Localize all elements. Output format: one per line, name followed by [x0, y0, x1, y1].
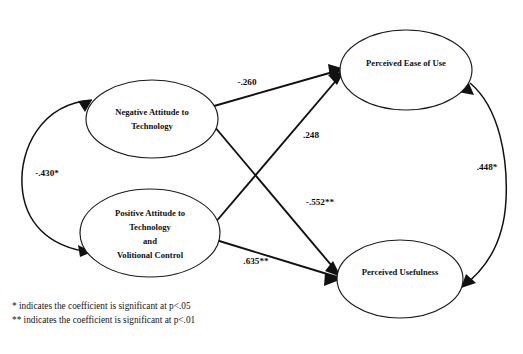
node-negative-attitude[interactable]: Negative Attitude to Technology	[86, 80, 218, 158]
node-negative-attitude-label-line-2: Technology	[131, 121, 173, 131]
node-perceived-ease-of-use[interactable]: Perceived Ease of Use	[340, 30, 472, 110]
node-perceived-usefulness-ellipse[interactable]	[337, 240, 463, 318]
path-negative-to-ease-of-use	[214, 64, 345, 106]
diagram-canvas: Negative Attitude to Technology Positive…	[0, 0, 523, 354]
node-positive-attitude-ellipse[interactable]	[80, 189, 220, 277]
node-positive-attitude[interactable]: Positive Attitude to Technology and Voli…	[80, 189, 220, 277]
node-negative-attitude-ellipse[interactable]	[86, 80, 218, 158]
node-positive-attitude-label-line-2: Technology	[129, 222, 171, 232]
correlation-peou-pu	[458, 81, 506, 288]
node-perceived-ease-of-use-label: Perceived Ease of Use	[366, 58, 446, 68]
node-perceived-ease-of-use-ellipse[interactable]	[340, 30, 472, 110]
path-line-neg-peou	[214, 70, 340, 106]
coefficient-label-neg-pos-correlation: -.430*	[35, 168, 59, 178]
path-line-pos-pu	[216, 240, 337, 277]
node-positive-attitude-label-line-1: Positive Attitude to	[115, 208, 185, 218]
coefficient-label-peou-pu-correlation: .448*	[477, 162, 498, 172]
coefficient-label-neg-to-pu: -.552**	[306, 197, 335, 207]
footnote-double-star: ** indicates the coefficient is signific…	[12, 315, 196, 325]
coefficient-label-pos-to-peou: .248	[303, 130, 319, 140]
correlation-curve-right	[462, 83, 506, 287]
coefficient-label-neg-to-peou: -.260	[237, 77, 257, 87]
node-perceived-usefulness[interactable]: Perceived Usefulness	[337, 240, 463, 318]
footnote-single-star: * indicates the coefficient is significa…	[12, 301, 191, 311]
path-positive-to-usefulness	[216, 240, 342, 286]
sem-path-diagram: Negative Attitude to Technology Positive…	[0, 0, 523, 354]
node-positive-attitude-label-line-4: Volitional Control	[117, 250, 184, 260]
node-positive-attitude-label-line-3: and	[143, 236, 157, 246]
coefficient-label-pos-to-pu: .635**	[243, 256, 269, 266]
node-perceived-usefulness-label: Perceived Usefulness	[362, 267, 439, 277]
node-negative-attitude-label-line-1: Negative Attitude to	[115, 107, 189, 117]
